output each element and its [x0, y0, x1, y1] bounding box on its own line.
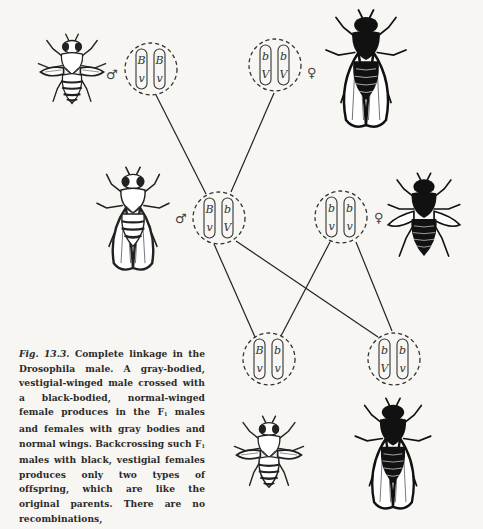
svg-text:B: B — [254, 344, 263, 357]
svg-text:V: V — [280, 68, 289, 81]
female-symbol-backcross: ♀ — [374, 210, 384, 225]
genotype-circle-offspring-left: B v b v — [243, 333, 295, 385]
svg-text:B: B — [154, 54, 163, 67]
cross-lines — [156, 93, 392, 337]
svg-text:v: v — [138, 72, 145, 85]
svg-text:b: b — [280, 50, 287, 63]
male-symbol-parent: ♂ — [106, 67, 118, 82]
svg-text:v: v — [206, 221, 213, 234]
fly-parent-female-black-normal — [326, 10, 406, 127]
line-female-offspring-right — [356, 242, 392, 331]
svg-text:b: b — [346, 202, 353, 215]
line-pmale-f1male — [156, 95, 206, 194]
genotype-circle-f1-male: B v b V — [193, 192, 245, 244]
svg-text:V: V — [262, 68, 271, 81]
svg-text:b: b — [224, 203, 231, 216]
subscript-1b: 1 — [201, 443, 205, 449]
genotype-circle-backcross-female: b v b v — [315, 191, 367, 243]
male-symbol-f1: ♂ — [175, 211, 187, 226]
genotype-circle-offspring-right: b V b v — [368, 333, 420, 385]
svg-text:v: v — [274, 362, 281, 375]
line-pfemale-f1male — [231, 93, 274, 192]
female-symbol-parent: ♀ — [307, 65, 317, 80]
figure-caption: Fig. 13.3. Complete linkage in the Droso… — [19, 347, 205, 526]
fly-offspring-gray-vestigial — [234, 416, 303, 487]
fly-f1-male-gray-normal — [97, 167, 169, 269]
svg-text:b: b — [328, 202, 335, 215]
line-f1male-offspring-right — [236, 241, 378, 337]
genotype-circle-parent-female: b V b V — [249, 39, 301, 91]
svg-text:b: b — [381, 344, 388, 357]
svg-text:b: b — [262, 50, 269, 63]
svg-text:V: V — [224, 221, 233, 234]
svg-text:b: b — [274, 344, 281, 357]
svg-text:b: b — [399, 344, 406, 357]
svg-text:v: v — [328, 220, 335, 233]
svg-text:B: B — [136, 54, 145, 67]
svg-text:V: V — [381, 362, 390, 375]
caption-text-3: males with black, vestigial females prod… — [19, 454, 205, 523]
figure-number: Fig. 13.3. — [19, 348, 70, 359]
svg-text:v: v — [399, 362, 406, 375]
svg-text:v: v — [156, 72, 163, 85]
line-f1male-offspring-left — [214, 244, 255, 337]
svg-text:v: v — [346, 220, 353, 233]
fly-offspring-black-normal — [355, 398, 431, 508]
fly-parent-male-gray-vestigial — [38, 34, 105, 103]
fly-female-black-vestigial — [388, 173, 460, 256]
line-female-offspring-left — [281, 242, 330, 336]
svg-text:B: B — [204, 203, 213, 216]
svg-text:v: v — [256, 362, 263, 375]
genotype-circle-parent-male: B v B v — [125, 43, 177, 95]
